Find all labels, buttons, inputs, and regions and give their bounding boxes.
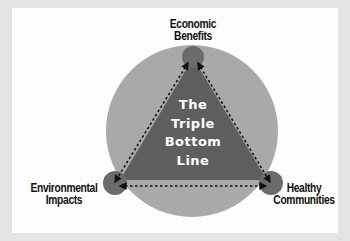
diagram-title: The Triple Bottom Line [158,96,228,170]
label-line: Impacts [18,194,110,206]
node-label-economic-benefits: Economic Benefits [159,18,226,42]
node-label-environmental-impacts: Environmental Impacts [18,182,110,206]
node-label-healthy-communities: Healthy Communities [270,182,339,206]
label-line: Benefits [159,30,226,42]
title-line: The [158,96,228,115]
title-line: Line [158,152,228,171]
vertex-circle-top [182,46,204,68]
label-line: Communities [270,194,339,206]
title-line: Bottom [158,133,228,152]
title-line: Triple [158,115,228,134]
